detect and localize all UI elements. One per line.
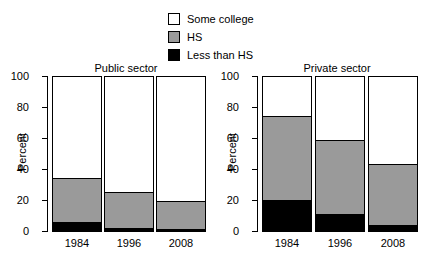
segment-divider-hs-private-2008: [369, 164, 417, 165]
y-axis-line-private: [257, 76, 258, 232]
y-tick-label-20-private: 20: [227, 195, 239, 206]
segment-less-than-hs-public-2008: [157, 229, 205, 231]
y-tick-label-60-private: 60: [227, 133, 239, 144]
y-tick-0-public: 0: [42, 231, 47, 232]
y-tick-label-80-private: 80: [227, 102, 239, 113]
y-tick-label-60-public: 60: [17, 133, 29, 144]
figure: Some college HS Less than HS Public sect…: [0, 0, 427, 267]
bar-column-private-2008: 2008: [368, 76, 418, 232]
segment-less-than-hs-private-2008: [369, 225, 417, 231]
plot-area-private: 100 80 60 40 20 0: [262, 76, 418, 232]
y-tick-label-100-public: 100: [11, 71, 29, 82]
x-tick-label-public-2008: 2008: [156, 238, 206, 249]
bar-column-private-1984: 1984: [262, 76, 312, 232]
segment-divider-hs-private-1984: [263, 116, 311, 117]
legend-label-hs: HS: [187, 31, 202, 43]
stacked-bar-private-1996[interactable]: [315, 76, 365, 232]
y-tick-label-100-private: 100: [221, 71, 239, 82]
legend-swatch-hs: [168, 31, 180, 43]
segment-less-than-hs-private-1984: [263, 200, 311, 231]
x-tick-label-public-1984: 1984: [52, 238, 102, 249]
y-tick-label-80-public: 80: [17, 102, 29, 113]
y-tick-label-0-public: 0: [23, 226, 29, 237]
segment-divider-hs-public-2008: [157, 201, 205, 202]
panel-public-sector: Public sector Percent 100 80 60 40 20 0: [8, 62, 208, 258]
segment-divider-hs-public-1984: [53, 178, 101, 179]
y-axis-line-public: [47, 76, 48, 232]
bar-group-public: 1984 1996 2008: [52, 76, 206, 232]
y-tick-0-private: 0: [252, 231, 257, 232]
y-tick-label-40-private: 40: [227, 164, 239, 175]
x-tick-label-private-2008: 2008: [368, 238, 418, 249]
bar-column-public-1984: 1984: [52, 76, 102, 232]
x-tick-label-public-1996: 1996: [104, 238, 154, 249]
y-tick-20-public: 20: [42, 200, 47, 201]
stacked-bar-private-2008[interactable]: [368, 76, 418, 232]
segment-divider-hs-private-1996: [316, 140, 364, 141]
segment-divider-hs-public-1996: [105, 192, 153, 193]
y-tick-label-40-public: 40: [17, 164, 29, 175]
panel-private-sector: Private sector Percent 100 80 60 40 20 0: [218, 62, 420, 258]
segment-hs-public-2008: [157, 202, 205, 231]
stacked-bar-private-1984[interactable]: [262, 76, 312, 232]
segment-less-than-hs-private-1996: [316, 214, 364, 231]
stacked-bar-public-1984[interactable]: [52, 76, 102, 232]
y-tick-40-public: 40: [42, 169, 47, 170]
legend-label-some-college: Some college: [187, 13, 254, 25]
y-tick-100-private: 100: [252, 76, 257, 77]
panel-title-private: Private sector: [258, 62, 416, 74]
y-tick-60-private: 60: [252, 138, 257, 139]
legend-label-less-than-hs: Less than HS: [187, 49, 253, 61]
y-tick-label-20-public: 20: [17, 195, 29, 206]
y-tick-label-0-private: 0: [233, 226, 239, 237]
x-tick-label-private-1984: 1984: [262, 238, 312, 249]
legend-item-some-college: Some college: [168, 12, 254, 26]
bar-column-public-2008: 2008: [156, 76, 206, 232]
segment-less-than-hs-public-1996: [105, 228, 153, 231]
y-tick-100-public: 100: [42, 76, 47, 77]
legend-item-less-than-hs: Less than HS: [168, 48, 254, 62]
stacked-bar-public-1996[interactable]: [104, 76, 154, 232]
y-tick-80-private: 80: [252, 107, 257, 108]
bar-column-public-1996: 1996: [104, 76, 154, 232]
plot-area-public: 100 80 60 40 20 0: [52, 76, 206, 232]
legend-swatch-some-college: [168, 13, 180, 25]
y-tick-40-private: 40: [252, 169, 257, 170]
segment-hs-public-1996: [105, 193, 153, 232]
y-tick-80-public: 80: [42, 107, 47, 108]
bar-group-private: 1984 1996 2008: [262, 76, 418, 232]
y-tick-20-private: 20: [252, 200, 257, 201]
bar-column-private-1996: 1996: [315, 76, 365, 232]
legend-swatch-less-than-hs: [168, 49, 180, 61]
x-tick-label-private-1996: 1996: [315, 238, 365, 249]
y-tick-60-public: 60: [42, 138, 47, 139]
stacked-bar-public-2008[interactable]: [156, 76, 206, 232]
segment-hs-private-2008: [369, 165, 417, 231]
legend-item-hs: HS: [168, 30, 254, 44]
panel-title-public: Public sector: [48, 62, 204, 74]
legend: Some college HS Less than HS: [168, 12, 254, 62]
segment-less-than-hs-public-1984: [53, 222, 101, 231]
